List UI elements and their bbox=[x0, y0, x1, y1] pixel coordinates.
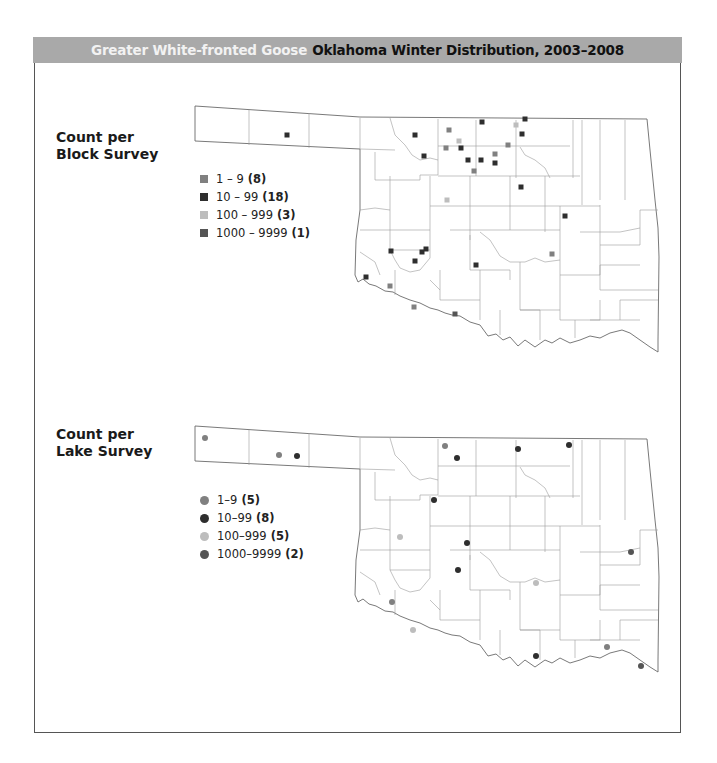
lake-point-marker-icon bbox=[515, 446, 521, 452]
legend-count: (1) bbox=[292, 226, 311, 240]
block-point-marker-icon bbox=[457, 139, 462, 144]
lake-point-marker-icon bbox=[294, 453, 300, 459]
lake-point-marker-icon bbox=[276, 452, 282, 458]
legend-range: 1–9 bbox=[217, 493, 237, 507]
block-point-marker-icon bbox=[472, 169, 477, 174]
block-point-marker-icon bbox=[493, 152, 498, 157]
legend-count: (2) bbox=[285, 547, 304, 561]
block-point-marker-icon bbox=[413, 133, 418, 138]
lake-point-marker-icon bbox=[604, 644, 610, 650]
legend-range: 1 – 9 bbox=[216, 172, 244, 186]
legend-range: 1000 – 9999 bbox=[216, 226, 288, 240]
block-point-marker-icon bbox=[422, 154, 427, 159]
block-point-marker-icon bbox=[424, 247, 429, 252]
block-point-marker-icon bbox=[474, 263, 479, 268]
block-point-marker-icon bbox=[550, 252, 555, 257]
block-point-marker-icon bbox=[389, 249, 394, 254]
block-point-marker-icon bbox=[520, 132, 525, 137]
block-point-marker-icon bbox=[506, 143, 511, 148]
circle-swatch-icon bbox=[200, 514, 209, 523]
legend-item: 1000–9999 (2) bbox=[200, 545, 304, 563]
block-point-marker-icon bbox=[453, 312, 458, 317]
block-point-marker-icon bbox=[563, 214, 568, 219]
legend-item: 10 – 99 (18) bbox=[200, 188, 310, 206]
block-point-marker-icon bbox=[459, 146, 464, 151]
lake-point-marker-icon bbox=[442, 443, 448, 449]
block-point-marker-icon bbox=[412, 305, 417, 310]
legend-count: (5) bbox=[241, 493, 260, 507]
lake-point-marker-icon bbox=[628, 549, 634, 555]
square-swatch-icon bbox=[200, 211, 208, 219]
circle-swatch-icon bbox=[200, 496, 209, 505]
square-swatch-icon bbox=[200, 229, 208, 237]
square-swatch-icon bbox=[200, 193, 208, 201]
legend-item: 1000 – 9999 (1) bbox=[200, 224, 310, 242]
block-survey-legend: 1 – 9 (8) 10 – 99 (18) 100 – 999 (3) 100… bbox=[200, 170, 310, 242]
lake-point-marker-icon bbox=[638, 663, 644, 669]
legend-item: 100–999 (5) bbox=[200, 527, 304, 545]
legend-range: 10–99 bbox=[217, 511, 252, 525]
lake-point-marker-icon bbox=[455, 567, 461, 573]
block-point-marker-icon bbox=[466, 158, 471, 163]
block-point-marker-icon bbox=[447, 128, 452, 133]
block-point-marker-icon bbox=[519, 185, 524, 190]
legend-item: 1 – 9 (8) bbox=[200, 170, 310, 188]
lake-point-marker-icon bbox=[410, 627, 416, 633]
legend-count: (18) bbox=[262, 190, 289, 204]
lake-point-marker-icon bbox=[464, 540, 470, 546]
block-point-marker-icon bbox=[413, 259, 418, 264]
circle-swatch-icon bbox=[200, 550, 209, 559]
block-point-marker-icon bbox=[388, 284, 393, 289]
block-point-marker-icon bbox=[364, 275, 369, 280]
legend-count: (5) bbox=[271, 529, 290, 543]
square-swatch-icon bbox=[200, 175, 208, 183]
lake-point-marker-icon bbox=[533, 580, 539, 586]
legend-item: 1–9 (5) bbox=[200, 491, 304, 509]
block-point-marker-icon bbox=[444, 146, 449, 151]
lake-point-marker-icon bbox=[454, 455, 460, 461]
legend-count: (8) bbox=[248, 172, 267, 186]
lake-point-marker-icon bbox=[566, 442, 572, 448]
legend-range: 1000–9999 bbox=[217, 547, 281, 561]
lake-point-marker-icon bbox=[397, 534, 403, 540]
legend-item: 100 – 999 (3) bbox=[200, 206, 310, 224]
circle-swatch-icon bbox=[200, 532, 209, 541]
block-point-marker-icon bbox=[514, 123, 519, 128]
legend-item: 10–99 (8) bbox=[200, 509, 304, 527]
lake-point-marker-icon bbox=[389, 599, 395, 605]
lake-point-marker-icon bbox=[431, 497, 437, 503]
block-point-marker-icon bbox=[493, 161, 498, 166]
legend-range: 100 – 999 bbox=[216, 208, 273, 222]
block-point-marker-icon bbox=[445, 198, 450, 203]
block-point-marker-icon bbox=[480, 120, 485, 125]
legend-count: (8) bbox=[256, 511, 275, 525]
legend-range: 100–999 bbox=[217, 529, 267, 543]
legend-count: (3) bbox=[277, 208, 296, 222]
lake-point-marker-icon bbox=[202, 435, 208, 441]
block-point-marker-icon bbox=[479, 158, 484, 163]
legend-range: 10 – 99 bbox=[216, 190, 258, 204]
lake-survey-legend: 1–9 (5) 10–99 (8) 100–999 (5) 1000–9999 … bbox=[200, 491, 304, 563]
block-point-marker-icon bbox=[523, 117, 528, 122]
lake-point-marker-icon bbox=[533, 653, 539, 659]
block-point-marker-icon bbox=[285, 133, 290, 138]
maps-canvas bbox=[0, 0, 717, 763]
